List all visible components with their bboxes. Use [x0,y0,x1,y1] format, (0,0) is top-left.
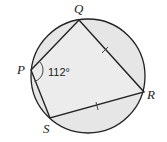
vertex-label-s: S [43,121,50,136]
vertex-label-p: P [16,62,25,77]
diagram-canvas: Q P R S 112° [0,0,167,142]
cyclic-quadrilateral-diagram: Q P R S 112° [0,0,167,142]
vertex-label-q: Q [74,1,84,16]
vertex-label-r: R [146,87,155,102]
angle-label-p: 112° [48,66,70,78]
